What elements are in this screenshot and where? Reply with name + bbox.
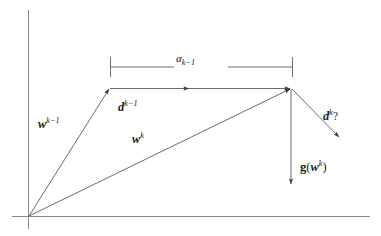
gradient-close-paren: ) — [322, 160, 326, 174]
vectors-group — [29, 89, 339, 217]
alpha-subscript: k−1 — [182, 58, 195, 67]
vector-diagram-figure: αk−1 dk−1 wk−1 wk dk? g(wk) — [0, 0, 381, 236]
label-d-k-question: dk? — [323, 110, 338, 123]
alpha-measure-bracket — [110, 57, 293, 77]
label-gradient-of-w-k: g(wk) — [300, 161, 327, 174]
label-alpha-k-minus-1: αk−1 — [176, 53, 195, 64]
vector-w-current — [29, 89, 290, 216]
d-prev-superscript: k−1 — [124, 99, 137, 108]
label-w-k: wk — [132, 133, 144, 146]
w-prev-superscript: k−1 — [46, 116, 59, 125]
label-w-k-minus-1: wk−1 — [38, 118, 60, 131]
axes-group — [12, 10, 370, 229]
gradient-argument: w — [310, 160, 318, 174]
label-d-k-minus-1: dk−1 — [118, 101, 138, 114]
w-cur-superscript: k — [140, 131, 144, 140]
d-next-question-mark: ? — [333, 110, 338, 122]
